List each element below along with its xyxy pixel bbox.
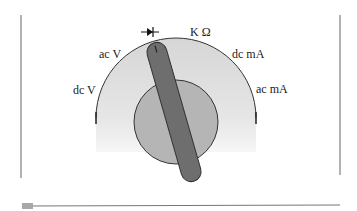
- multimeter-selector-diagram: K Ω ac V dc V dc mA ac mA: [0, 0, 357, 211]
- corner-marker: [22, 203, 33, 209]
- label-ac-ma: ac mA: [256, 82, 288, 96]
- frame-bottom-line: [22, 205, 340, 206]
- label-dc-v: dc V: [73, 83, 96, 97]
- label-kohm: K Ω: [190, 25, 211, 39]
- label-dc-ma: dc mA: [232, 47, 265, 61]
- label-ac-v: ac V: [99, 47, 121, 61]
- diode-icon: [141, 27, 159, 37]
